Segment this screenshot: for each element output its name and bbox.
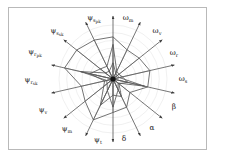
axis-label-delta: δ [122, 135, 126, 142]
axis-label-omega_s: ωs [179, 75, 188, 82]
axis-label-omega_v: ωv [153, 27, 162, 34]
axis-label-psi_s_pk: ψspk [87, 14, 101, 21]
axis-label-psi_r_pk: ψrpk [28, 48, 41, 55]
radar-center-dot [110, 76, 115, 81]
axis-label-psi_s_sk: ψssk [51, 27, 64, 34]
axis-label-psi_m: ψm [62, 125, 72, 132]
axis-label-psi_v: ψv [39, 106, 48, 113]
axis-label-beta: β [172, 103, 176, 110]
axis-label-omega_r: ωr [170, 49, 178, 56]
radar-figure: ψspkωmωvωrωsβαδψtψmψvψrskψrpkψssk [0, 0, 230, 159]
axis-label-alpha: α [150, 124, 155, 131]
axis-label-psi_t: ψt [94, 136, 102, 143]
axis-label-omega_m: ωm [123, 14, 134, 21]
axis-label-psi_r_sk: ψrsk [25, 76, 38, 83]
